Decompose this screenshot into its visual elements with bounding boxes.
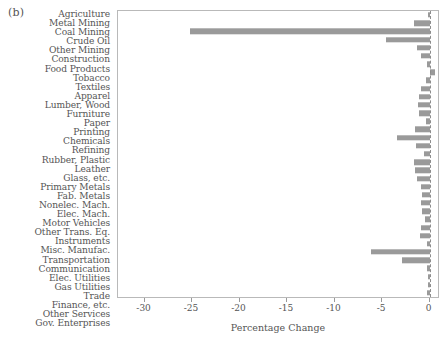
bar [421,53,430,58]
bars-layer [118,11,438,297]
bar-row [118,68,438,76]
bar [190,29,429,34]
bar [422,192,429,197]
bar-row [118,76,438,84]
bar-row [118,256,438,264]
x-tick-mark [286,298,287,302]
bar [419,94,429,99]
bar-row [118,150,438,158]
bar [415,168,429,173]
x-tick-label: -20 [231,303,246,313]
bar-row [118,117,438,125]
bar [417,45,429,50]
x-tick-mark [381,298,382,302]
x-axis: -30-25-20-15-10-50 [117,298,439,320]
bar [421,225,429,230]
category-label: Gov. Enterprises [2,319,114,328]
bar-row [118,11,438,19]
x-tick-mark [239,298,240,302]
bar-row [118,248,438,256]
bar-row [118,158,438,166]
bar [421,86,430,91]
category-axis-labels: AgricultureMetal MiningCoal MiningCrude … [2,10,114,298]
bar-row [118,273,438,281]
bar [415,127,429,132]
bar [420,233,429,238]
x-tick-label: 0 [426,303,432,313]
bar [397,135,429,140]
x-tick-mark [334,298,335,302]
x-tick-label: -5 [377,303,386,313]
bar-row [118,101,438,109]
x-axis-title: Percentage Change [117,322,439,333]
bar-row [118,191,438,199]
bar [421,184,430,189]
bar-row [118,264,438,272]
bar [371,249,430,254]
bar-row [118,134,438,142]
bar-row [118,183,438,191]
bar [418,102,429,107]
bar [386,37,430,42]
bar-row [118,60,438,68]
x-tick-mark [144,298,145,302]
bar-row [118,199,438,207]
bar-row [118,174,438,182]
bar-row [118,93,438,101]
bar [402,258,430,263]
x-tick-label: -10 [326,303,341,313]
bar-row [118,215,438,223]
zero-reference-line [430,11,431,297]
bar-row [118,223,438,231]
x-tick-label: -15 [279,303,294,313]
bar-row [118,85,438,93]
x-tick-label: -25 [184,303,199,313]
bar-row [118,240,438,248]
x-tick-mark [429,298,430,302]
bar-row [118,142,438,150]
bar-row [118,232,438,240]
bar-row [118,281,438,289]
bar-row [118,36,438,44]
bar [416,143,429,148]
bar [414,159,429,164]
bar [421,200,430,205]
bar-row [118,109,438,117]
bar-row [118,125,438,133]
figure-panel: (b) AgricultureMetal MiningCoal MiningCr… [0,0,445,344]
plot-area [117,10,439,298]
bar-row [118,52,438,60]
bar [422,209,430,214]
bar-row [118,44,438,52]
bar [414,21,429,26]
x-tick-mark [191,298,192,302]
bar-row [118,289,438,297]
x-tick-label: -30 [136,303,151,313]
bar-row [118,19,438,27]
bar [419,110,429,115]
bar [417,176,429,181]
bar-row [118,27,438,35]
bar-row [118,207,438,215]
bar-row [118,166,438,174]
